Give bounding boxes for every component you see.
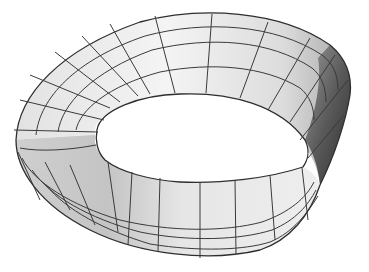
mobius-strip-figure	[0, 0, 369, 272]
